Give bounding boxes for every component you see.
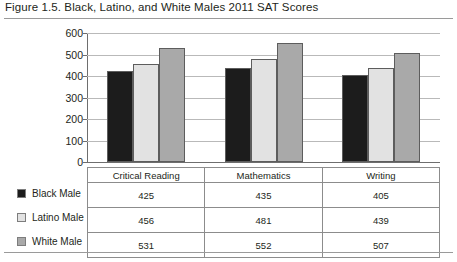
table-cell-value: 531: [88, 233, 205, 258]
bar: [225, 68, 251, 162]
table-header-row: Critical ReadingMathematicsWriting: [88, 168, 440, 183]
legend-label: White Male: [32, 236, 82, 247]
table-cell-value: 425: [88, 183, 205, 208]
table-column-header: Critical Reading: [88, 168, 205, 183]
table-cell-value: 405: [322, 183, 439, 208]
table-cell-value: 552: [205, 233, 322, 258]
table-cell-value: 507: [322, 233, 439, 258]
y-axis-tick-mark: [83, 162, 87, 163]
legend-swatch-icon: [17, 189, 26, 198]
chart-legend: Black MaleLatino MaleWhite Male: [0, 167, 87, 255]
table-row: 425435405: [88, 183, 440, 208]
table-cell-value: 456: [88, 208, 205, 233]
bar: [342, 75, 368, 162]
bar-chart: 0100200300400500600: [0, 22, 457, 167]
y-axis-tick-label: 600: [53, 28, 83, 39]
table-column-header: Writing: [322, 168, 439, 183]
y-axis-tick-label: 100: [53, 136, 83, 147]
bar: [107, 71, 133, 162]
y-axis-tick-label: 300: [53, 93, 83, 104]
bar-group: [107, 33, 185, 162]
bar: [159, 48, 185, 162]
data-table: Critical ReadingMathematicsWriting 42543…: [87, 167, 440, 258]
bar-group: [342, 33, 420, 162]
data-table-block: Critical ReadingMathematicsWriting 42543…: [87, 167, 440, 258]
legend-swatch-icon: [17, 213, 26, 222]
legend-label: Latino Male: [32, 212, 84, 223]
y-axis-tick-label: 200: [53, 114, 83, 125]
bar-group: [225, 33, 303, 162]
table-body: 425435405456481439531552507: [88, 183, 440, 258]
plot-area: [87, 33, 440, 163]
legend-item: White Male: [17, 229, 82, 253]
y-axis: 0100200300400500600: [50, 22, 83, 167]
legend-label: Black Male: [32, 188, 81, 199]
bar: [394, 53, 420, 162]
bar: [277, 43, 303, 162]
legend-item: Latino Male: [17, 205, 84, 229]
figure-title: Figure 1.5. Black, Latino, and White Mal…: [5, 1, 318, 13]
bar: [368, 68, 394, 162]
table-row: 531552507: [88, 233, 440, 258]
legend-item: Black Male: [17, 181, 81, 205]
y-axis-tick-label: 500: [53, 50, 83, 61]
bar: [133, 64, 159, 162]
table-cell-value: 439: [322, 208, 439, 233]
legend-swatch-icon: [17, 237, 26, 246]
y-axis-tick-label: 0: [53, 157, 83, 168]
y-axis-tick-label: 400: [53, 71, 83, 82]
table-column-header: Mathematics: [205, 168, 322, 183]
title-underline-rule: [4, 18, 453, 19]
table-row: 456481439: [88, 208, 440, 233]
table-cell-value: 481: [205, 208, 322, 233]
table-cell-value: 435: [205, 183, 322, 208]
x-axis-line: [87, 162, 440, 163]
footer-rule: [4, 252, 453, 253]
bar: [251, 59, 277, 162]
bars-layer: [87, 33, 440, 162]
